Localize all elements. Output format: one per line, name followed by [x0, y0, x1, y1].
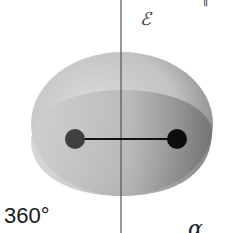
ellipsoid-figure [0, 0, 227, 233]
atom-right [167, 129, 187, 149]
atom-left [65, 129, 85, 149]
alpha-label: α [188, 218, 203, 233]
angle-label: 360° [4, 205, 50, 227]
polarizability-diagram: ℰ ∥ 360° α [0, 0, 227, 233]
parallel-mark: ∥ [203, 0, 209, 8]
field-label: ℰ [140, 10, 151, 28]
